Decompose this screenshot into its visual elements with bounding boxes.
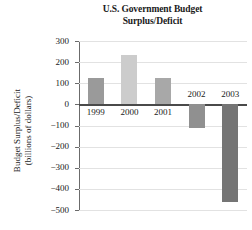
y-axis-tick bbox=[75, 126, 79, 127]
y-axis-tick bbox=[75, 210, 79, 211]
y-axis-tick bbox=[75, 168, 79, 169]
y-axis-tick-label: −300 bbox=[35, 163, 69, 172]
gridline bbox=[79, 62, 247, 63]
x-axis-label-1999: 1999 bbox=[79, 108, 113, 117]
plot-area: 3002001000−100−200−300−400−5001999200020… bbox=[79, 41, 247, 210]
y-axis-tick-label: −400 bbox=[35, 184, 69, 193]
x-axis-label-2000: 2000 bbox=[112, 108, 146, 117]
y-axis-tick-label: 200 bbox=[35, 58, 69, 67]
x-axis-label-2002: 2002 bbox=[180, 90, 214, 99]
x-axis-label-2003: 2003 bbox=[213, 90, 247, 99]
y-axis-tick bbox=[75, 62, 79, 63]
chart-title-line2: Surplus/Deficit bbox=[123, 16, 183, 26]
y-axis-tick-label: 100 bbox=[35, 79, 69, 88]
chart-title-line1: U.S. Government Budget bbox=[103, 4, 203, 14]
y-axis-tick bbox=[75, 83, 79, 84]
y-axis-tick bbox=[75, 41, 79, 42]
gridline bbox=[79, 210, 247, 211]
y-axis-label-line2: (billions of dollars) bbox=[22, 46, 33, 216]
y-axis-tick-label: −100 bbox=[35, 121, 69, 130]
bar-2002[interactable] bbox=[189, 104, 205, 127]
y-axis-label: Budget Surplus/Deficit (billions of doll… bbox=[12, 46, 33, 216]
y-axis-tick bbox=[75, 189, 79, 190]
y-axis-tick-label: −500 bbox=[35, 206, 69, 215]
x-axis-label-2001: 2001 bbox=[146, 108, 180, 117]
y-axis-tick-label: 300 bbox=[35, 37, 69, 46]
gridline bbox=[79, 41, 247, 42]
y-axis-label-line1: Budget Surplus/Deficit bbox=[12, 46, 23, 216]
bar-1999[interactable] bbox=[88, 78, 104, 104]
bar-2001[interactable] bbox=[155, 78, 171, 105]
chart-figure: U.S. Government Budget Surplus/Deficit B… bbox=[0, 0, 252, 230]
y-axis-tick-label: −200 bbox=[35, 142, 69, 151]
bar-2000[interactable] bbox=[121, 55, 137, 105]
y-axis-tick-label: 0 bbox=[35, 100, 69, 109]
chart-title: U.S. Government Budget Surplus/Deficit bbox=[60, 4, 245, 27]
y-axis-tick bbox=[75, 147, 79, 148]
bar-2003[interactable] bbox=[222, 104, 238, 201]
